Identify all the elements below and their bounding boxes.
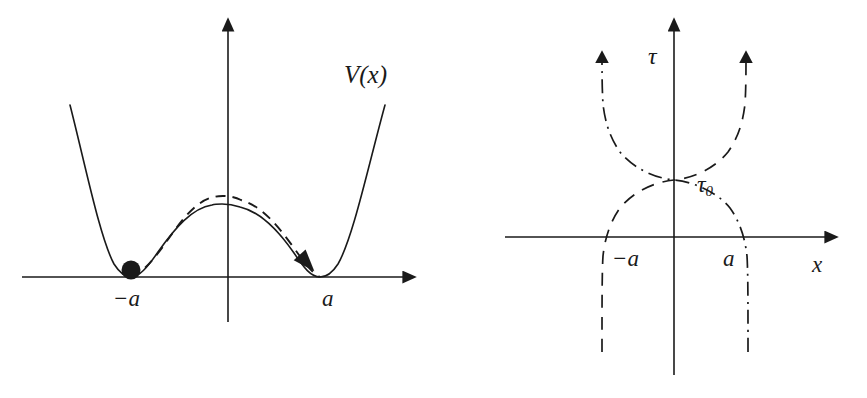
tau-axis-label: τ xyxy=(648,44,657,68)
ball-marker xyxy=(122,261,141,280)
tau-zero-label: τ0 xyxy=(697,172,713,199)
tau-zero-subscript: 0 xyxy=(706,183,713,199)
right-minimum-label: a xyxy=(322,287,334,310)
figure-root: V(x) −a a τ x τ0 −a xyxy=(0,0,867,398)
tunneling-path-dashed xyxy=(131,196,320,277)
potential-curve-label: V(x) xyxy=(344,62,387,87)
right-minimum-label: a xyxy=(723,247,735,270)
tau-zero-base: τ xyxy=(697,171,706,197)
instanton-plot-panel: τ x τ0 −a a xyxy=(434,0,867,398)
left-minimum-label: −a xyxy=(612,247,639,270)
potential-plot-panel: V(x) −a a xyxy=(0,0,434,398)
anti-instanton-curve-dashdot xyxy=(602,58,748,352)
left-minimum-label: −a xyxy=(113,287,140,310)
potential-plot-svg xyxy=(0,0,434,398)
x-axis-label: x xyxy=(812,253,822,276)
